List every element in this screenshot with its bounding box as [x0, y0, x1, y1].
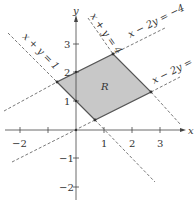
x-axis-arrow-icon — [180, 128, 186, 132]
region-diagram: −2 1 2 3 3 2 1 −1 −2 x y R x + y = 1 x +… — [0, 0, 194, 213]
x-tick-label-1: 1 — [101, 138, 107, 149]
region-label: R — [100, 81, 109, 92]
x-tick-label-2: 2 — [129, 138, 135, 149]
y-axis-arrow-icon — [74, 15, 78, 22]
label-x-minus-2y-eq-neg4: x − 2y = −4 — [126, 2, 186, 40]
y-tick-label-2: 2 — [64, 67, 70, 78]
y-tick-label-3: 3 — [64, 39, 70, 50]
x-axis-label: x — [188, 125, 194, 136]
y-axis-label: y — [72, 5, 79, 16]
x-tick-label-neg2: −2 — [12, 138, 27, 149]
label-x-plus-y-eq-4: x + y = 4 — [88, 11, 124, 56]
x-tick-label-3: 3 — [157, 138, 163, 149]
line-x-minus-2y-eq-neg4 — [4, 82, 57, 111]
y-tick-label-neg2: −2 — [59, 182, 74, 193]
line-x-plus-y-eq-4-lower — [151, 92, 180, 124]
y-tick-label-1: 1 — [64, 96, 70, 107]
label-x-minus-2y-eq-0: x − 2y = 0 — [150, 51, 194, 85]
y-tick-label-neg1: −1 — [59, 153, 74, 164]
